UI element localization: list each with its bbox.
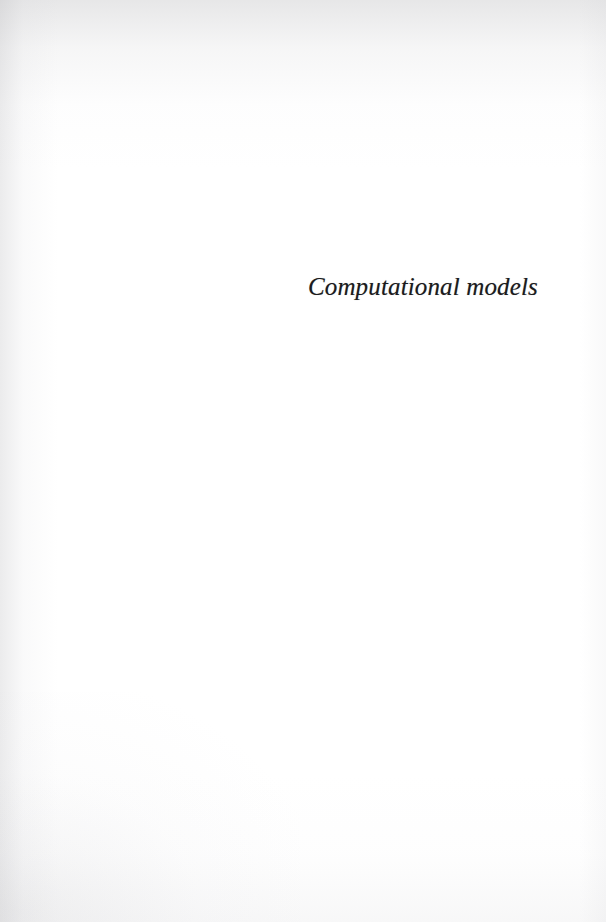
page-title: Computational models: [308, 270, 538, 304]
scan-vignette-top: [0, 0, 606, 170]
scan-vignette-bottom-left: [0, 692, 300, 922]
part-title-block: Computational models: [0, 270, 538, 304]
scanned-page: Computational models: [0, 0, 606, 922]
scan-vignette-right: [580, 0, 606, 922]
scan-vignette-left: [0, 0, 58, 922]
scan-vignette-bottom: [0, 772, 606, 922]
